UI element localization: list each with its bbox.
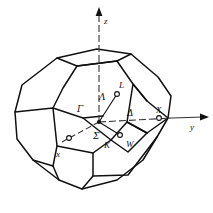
front-left-lower-edge xyxy=(57,140,111,153)
top-face-front-edge xyxy=(77,61,117,66)
W-point-label: W xyxy=(126,139,135,149)
z-axis-label: z xyxy=(103,16,108,26)
K-point-label: K xyxy=(103,140,111,150)
y-axis-arrowhead xyxy=(200,114,209,121)
front-centre-upper-edge xyxy=(83,116,103,118)
bottom-front-chain xyxy=(82,153,93,189)
brillouin-zone-figure: z y x Γ L X W K Λ Δ Σ xyxy=(0,0,213,213)
x-axis-label: x xyxy=(55,149,60,159)
axis-lines xyxy=(60,13,203,143)
gamma-point-label: Γ xyxy=(76,104,84,114)
brillouin-zone-diagram: z y x Γ L X W K Λ Δ Σ xyxy=(0,0,213,213)
diagram-labels: z y x Γ L X W K Λ Δ Σ xyxy=(55,16,194,159)
y-axis-label: y xyxy=(189,122,194,132)
z-axis-arrowhead xyxy=(96,7,103,16)
left-mid-chain xyxy=(15,108,57,166)
left-upper-hexagon-edge xyxy=(53,66,77,108)
polyhedron-edges xyxy=(15,49,171,189)
y-axis-solid xyxy=(172,117,203,118)
L-point-marker xyxy=(115,92,120,97)
L-point-label: L xyxy=(118,80,124,90)
gamma-point-marker xyxy=(97,120,101,124)
bottom-right-chain xyxy=(93,137,157,176)
K-point-marker xyxy=(67,136,72,141)
lambda-line-label: Λ xyxy=(98,92,106,102)
sigma-line-label: Σ xyxy=(92,131,100,141)
x-square-lower-edge xyxy=(127,122,147,133)
delta-line-label: Δ xyxy=(126,108,134,118)
W-point-marker xyxy=(118,133,123,138)
X-point-label: X xyxy=(155,105,162,115)
X-point-marker xyxy=(157,116,162,121)
